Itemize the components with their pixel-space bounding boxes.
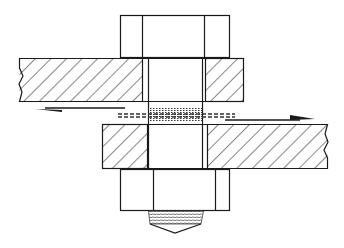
diagram-canvas: Bolted joint in shear (slip between clam…: [0, 0, 344, 248]
force-arrow-left-icon: [35, 108, 125, 112]
lower-plate: [103, 125, 329, 169]
threaded-bolt-end: [149, 211, 204, 233]
shear-plane: [118, 107, 235, 121]
nut: [121, 170, 230, 211]
upper-plate: [19, 59, 244, 102]
force-arrow-right-icon: [225, 115, 315, 120]
bolt-head: [121, 16, 230, 58]
